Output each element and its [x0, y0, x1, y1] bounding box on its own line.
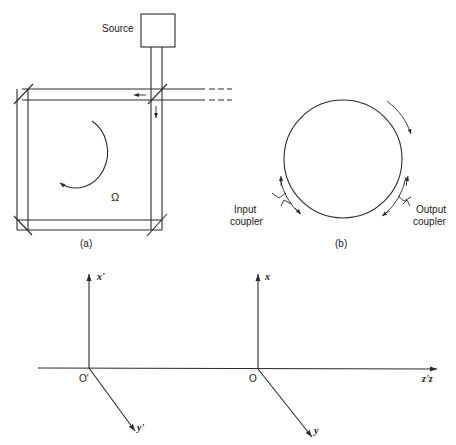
- coordinate-frames: [38, 274, 437, 437]
- circulation-arrow-icon: [387, 101, 411, 134]
- output-coupler-bracket-1: [398, 196, 411, 201]
- y-prime-label: y': [136, 422, 144, 433]
- output-coupler-label-2: coupler: [413, 216, 446, 227]
- ring-circle: [284, 100, 402, 218]
- mirror-bottom-right: [147, 214, 167, 236]
- output-coupler-waveguide: [385, 177, 406, 214]
- output-coupler-label-1: Output: [416, 204, 446, 215]
- y-prime-axis: [89, 368, 135, 431]
- z-label: z'z: [421, 373, 433, 384]
- omega-symbol: Ω: [111, 191, 119, 203]
- z-axis: [38, 368, 437, 369]
- input-coupler-bracket-1: [272, 193, 286, 198]
- caption-b: (b): [335, 238, 347, 249]
- input-coupler-label-2: coupler: [230, 216, 263, 227]
- diagram-canvas: Source Ω (a) Input coupler Output couple…: [0, 0, 456, 445]
- origin-label: O: [249, 373, 257, 384]
- input-coupler-label-1: Input: [234, 204, 256, 215]
- y-label: y: [313, 425, 319, 436]
- output-arrow-down-icon: [382, 211, 389, 216]
- x-label: x: [264, 271, 270, 282]
- x-prime-label: x': [96, 271, 105, 282]
- rotation-arrow-icon: [60, 121, 108, 188]
- ring-interferometer-square: [14, 14, 232, 236]
- source-label: Source: [102, 23, 134, 34]
- ring-resonator: [272, 100, 411, 218]
- caption-a: (a): [80, 238, 92, 249]
- y-axis: [258, 369, 312, 437]
- input-arrow-down-icon: [295, 208, 301, 214]
- source-box: [141, 14, 175, 47]
- primed-origin-label: O': [79, 373, 89, 384]
